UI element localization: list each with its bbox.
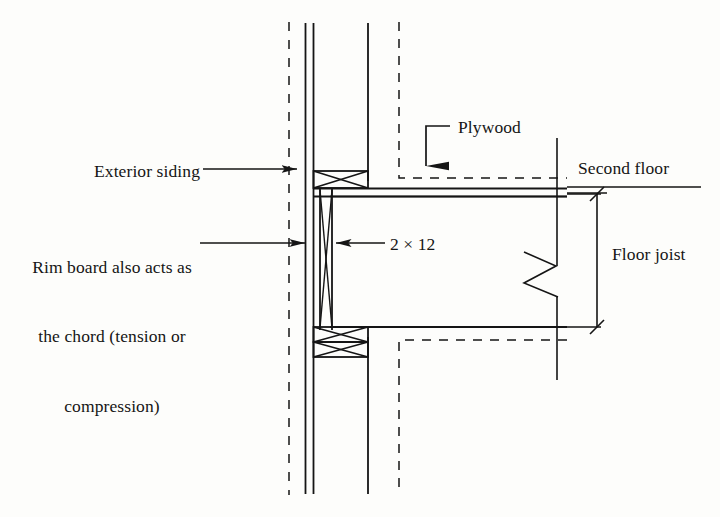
upper-cavity-dashed-outline: [399, 22, 567, 178]
figure-canvas: Exterior siding Rim board also acts as t…: [0, 0, 720, 517]
label-lumber-size: 2 × 12: [390, 233, 435, 256]
label-rim-board-line1: Rim board also acts as: [24, 256, 200, 279]
rim-board-member: [320, 188, 332, 330]
label-rim-board-line2: the chord (tension or: [24, 325, 200, 348]
label-rim-board-line3: compression): [24, 395, 200, 418]
label-second-floor: Second floor: [578, 157, 669, 180]
lower-cavity-dashed-outline: [399, 340, 567, 494]
bottom-double-plate-block: [314, 327, 369, 357]
floor-joist-dimension: [567, 187, 604, 334]
break-line-icon: [524, 252, 558, 297]
label-exterior-siding: Exterior siding: [40, 160, 200, 183]
leader-plywood: [426, 126, 450, 166]
label-floor-joist: Floor joist: [612, 243, 686, 266]
label-plywood: Plywood: [458, 116, 521, 139]
top-plate-block: [314, 171, 369, 188]
label-rim-board-chord: Rim board also acts as the chord (tensio…: [24, 210, 200, 464]
